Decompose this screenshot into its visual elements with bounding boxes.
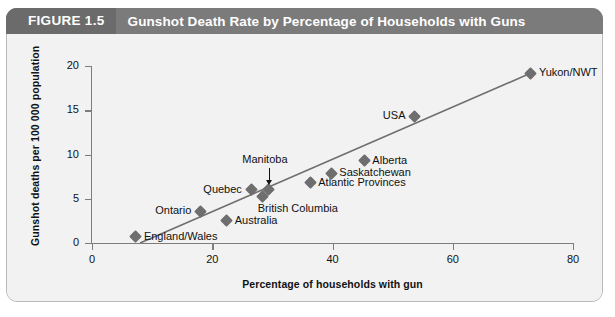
y-tick-5 (85, 199, 91, 200)
y-tick-label-5: 5 (53, 192, 79, 204)
data-point-marker (245, 184, 258, 197)
x-tick-label-60: 60 (438, 253, 468, 265)
data-point-marker (220, 215, 233, 228)
y-tick-15 (85, 110, 91, 111)
data-point-marker (525, 67, 538, 80)
x-axis-title: Percentage of households with gun (238, 278, 428, 290)
y-tick-10 (85, 155, 91, 156)
data-point-label: USA (383, 109, 406, 121)
figure-number-label: FIGURE 1.5 (6, 8, 116, 34)
data-point-label: Saskatchewan (339, 166, 411, 178)
x-tick-label-40: 40 (318, 253, 348, 265)
x-tick-40 (333, 244, 334, 250)
data-point-label: Manitoba (242, 153, 287, 165)
y-tick-label-20: 20 (53, 59, 79, 71)
y-tick-label-10: 10 (53, 148, 79, 160)
y-tick-0 (85, 243, 91, 244)
x-tick-label-80: 80 (558, 253, 588, 265)
data-point-marker (130, 230, 143, 243)
x-tick-80 (573, 244, 574, 250)
data-point-label: Quebec (203, 183, 242, 195)
x-tick-60 (453, 244, 454, 250)
x-tick-label-0: 0 (77, 253, 107, 265)
data-point-marker (194, 205, 207, 218)
x-tick-0 (92, 244, 93, 250)
plot-area: 05101520020406080Percentage of household… (7, 34, 602, 301)
data-point-label: England/Wales (144, 230, 218, 242)
y-axis-title: Gunshot deaths per 100 000 population (29, 46, 41, 246)
data-point-label: British Columbia (258, 202, 338, 214)
manitoba-callout-arrow (269, 168, 270, 181)
data-point-marker (304, 176, 317, 189)
y-tick-label-0: 0 (53, 236, 79, 248)
x-tick-20 (212, 244, 213, 250)
data-point-label: Ontario (155, 204, 191, 216)
figure-gunshot-death-rate: FIGURE 1.5 Gunshot Death Rate by Percent… (0, 0, 615, 317)
data-point-label: Yukon/NWT (539, 66, 598, 78)
figure-header: FIGURE 1.5 Gunshot Death Rate by Percent… (6, 8, 603, 34)
figure-title: Gunshot Death Rate by Percentage of Hous… (116, 14, 526, 29)
data-point-marker (408, 110, 421, 123)
y-axis-line (91, 66, 92, 243)
y-tick-20 (85, 66, 91, 67)
x-tick-label-20: 20 (197, 253, 227, 265)
data-point-label: Australia (235, 214, 278, 226)
y-tick-label-15: 15 (53, 103, 79, 115)
data-point-label: Alberta (372, 154, 407, 166)
